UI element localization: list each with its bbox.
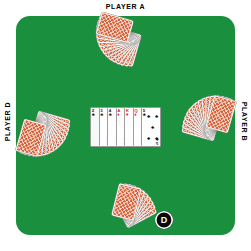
card-pip: ♣ bbox=[147, 136, 150, 141]
card-index-tl: Q♦ bbox=[134, 109, 137, 118]
card-index-tl: A♦ bbox=[117, 109, 120, 118]
card-pip: ♣ bbox=[155, 136, 158, 141]
card-index-tl: 3♣ bbox=[100, 109, 103, 118]
card-pip: ♣ bbox=[151, 125, 154, 130]
card-pip: ♣ bbox=[147, 114, 150, 119]
community-cards[interactable]: 2♣2♣3♣3♣4♣4♣A♦A♦K♥K♥Q♦Q♦5♣5♣♣♣♣♣♣ bbox=[90, 107, 162, 147]
poker-table-screenshot: PLAYER A PLAYER D PLAYER B 2♣2♣3♣3♣4♣4♣A… bbox=[0, 0, 251, 251]
card-index-tl: K♥ bbox=[126, 109, 129, 118]
card-index-tl: 2♣ bbox=[92, 109, 95, 118]
community-card[interactable]: 5♣5♣♣♣♣♣♣ bbox=[141, 107, 161, 147]
seat-label-player-d: PLAYER D bbox=[4, 94, 11, 150]
seat-label-player-a: PLAYER A bbox=[0, 3, 251, 10]
card-index-tl: 5♣ bbox=[143, 109, 146, 118]
card-index-tl: 4♣ bbox=[109, 109, 112, 118]
card-pip: ♣ bbox=[155, 114, 158, 119]
dealer-button[interactable]: D bbox=[155, 211, 173, 229]
seat-label-player-b: PLAYER B bbox=[241, 94, 248, 150]
